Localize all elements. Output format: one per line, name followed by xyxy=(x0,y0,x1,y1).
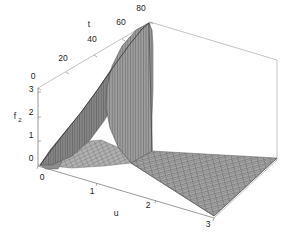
u-tick-label-1: 1 xyxy=(90,186,95,196)
f2-tick-label-3: 3 xyxy=(29,84,34,94)
t-tick-label-20: 20 xyxy=(58,53,68,63)
t-tick-label-40: 40 xyxy=(87,34,97,44)
surface-plot-figure: 0 20 40 60 80 3 2 1 0 0 1 2 3 t u f 2 xyxy=(0,0,296,241)
f2-axis-label: f 2 xyxy=(14,111,23,123)
f2-axis-label-subscript: 2 xyxy=(18,117,22,123)
u-axis-label: u xyxy=(114,208,119,218)
f2-axis-label-base: f xyxy=(14,111,17,121)
u-tick-label-0: 0 xyxy=(40,172,45,182)
u-tick-label-2: 2 xyxy=(146,200,151,210)
t-tick-label-0: 0 xyxy=(31,71,36,81)
plot-canvas: 0 20 40 60 80 3 2 1 0 0 1 2 3 t u f 2 xyxy=(0,0,296,241)
t-tick-label-60: 60 xyxy=(116,17,126,27)
t-tick-label-80: 80 xyxy=(136,3,146,13)
surface-plateau xyxy=(131,151,277,216)
f2-tick-label-1: 1 xyxy=(29,130,34,140)
t-axis-label: t xyxy=(88,19,91,29)
f2-tick-label-0: 0 xyxy=(29,153,34,163)
u-tick-label-3: 3 xyxy=(206,219,211,229)
f2-tick-label-2: 2 xyxy=(29,107,34,117)
surface-mesh xyxy=(40,23,277,216)
